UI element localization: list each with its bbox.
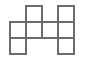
polyomino-cell-r1-c0 [10,22,26,38]
polyomino-cell-r1-c1 [26,22,42,38]
polyomino-figure [0,0,85,76]
polyomino-grid [0,0,85,76]
polyomino-cell-r1-c2 [42,22,58,38]
polyomino-cell-r0-c1 [26,6,42,22]
polyomino-cell-r1-c3 [58,22,74,38]
polyomino-cell-r0-c3 [58,6,74,22]
polyomino-cell-r2-c3 [58,38,74,54]
polyomino-cell-r2-c0 [10,38,26,54]
